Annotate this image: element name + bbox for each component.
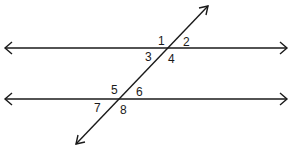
angle-label-6: 6 <box>136 85 143 99</box>
angle-label-5: 5 <box>111 83 118 97</box>
angle-label-7: 7 <box>94 101 101 115</box>
bottom-parallel-line <box>5 93 287 105</box>
angle-label-4: 4 <box>168 52 175 66</box>
angle-label-3: 3 <box>145 50 152 64</box>
transversal-line <box>76 6 208 144</box>
angle-label-1: 1 <box>158 34 165 48</box>
angle-label-8: 8 <box>120 103 127 117</box>
parallel-lines-diagram: 1 2 3 4 5 6 7 8 <box>0 0 290 150</box>
angle-label-2: 2 <box>183 35 190 49</box>
